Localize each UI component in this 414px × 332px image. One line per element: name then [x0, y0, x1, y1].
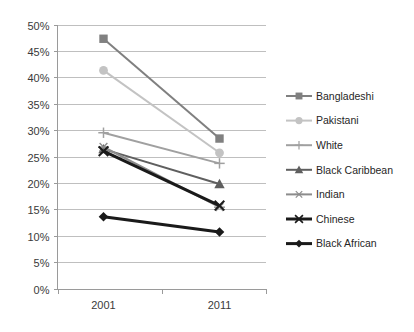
chart-canvas: 0%5%10%15%20%25%30%35%40%45%50% 20012011… — [0, 0, 414, 332]
y-tick-label: 30% — [27, 125, 49, 137]
y-tick-label: 10% — [27, 231, 49, 243]
plus-marker — [295, 141, 304, 150]
series-line — [104, 39, 220, 139]
y-tick-label: 20% — [27, 178, 49, 190]
y-tick-label: 15% — [27, 204, 49, 216]
circle-marker — [99, 66, 108, 75]
y-tick-label: 45% — [27, 46, 49, 58]
legend-label: Pakistani — [316, 114, 359, 126]
y-tick-label: 25% — [27, 152, 49, 164]
asterisk-marker — [295, 191, 304, 197]
legend-item-bangladeshi[interactable]: Bangladeshi — [286, 90, 374, 102]
legend-label: Bangladeshi — [316, 90, 374, 102]
legend-item-indian[interactable]: Indian — [286, 188, 345, 200]
series-black-african — [99, 212, 225, 237]
legend-label: Black Caribbean — [316, 164, 393, 176]
series-line — [104, 70, 220, 152]
diamond-marker — [99, 212, 109, 222]
y-axis-tick-labels: 0%5%10%15%20%25%30%35%40%45%50% — [27, 20, 49, 296]
y-tick-label: 50% — [27, 20, 49, 32]
circle-marker — [215, 148, 224, 157]
legend-label: Chinese — [316, 213, 355, 225]
legend-item-black-caribbean[interactable]: Black Caribbean — [286, 164, 393, 176]
x-axis-tick-labels: 20012011 — [91, 299, 231, 311]
axis-layer — [54, 25, 267, 294]
y-tick-label: 5% — [34, 257, 50, 269]
legend-label: White — [316, 139, 343, 151]
y-tick-label: 0% — [34, 284, 50, 296]
y-tick-label: 40% — [27, 72, 49, 84]
legend-item-chinese[interactable]: Chinese — [286, 213, 355, 225]
square-marker — [99, 35, 107, 43]
circle-marker — [295, 117, 302, 124]
series-pakistani — [99, 66, 224, 157]
chart-legend: BangladeshiPakistaniWhiteBlack Caribbean… — [286, 90, 393, 250]
diamond-marker — [295, 240, 303, 248]
y-tick-label: 35% — [27, 99, 49, 111]
legend-item-white[interactable]: White — [286, 139, 343, 151]
line-chart: 0%5%10%15%20%25%30%35%40%45%50% 20012011… — [0, 0, 414, 332]
square-marker — [215, 134, 223, 142]
square-marker — [296, 93, 303, 100]
plus-marker — [98, 128, 108, 138]
legend-label: Indian — [316, 188, 345, 200]
diamond-marker — [215, 227, 225, 237]
data-series-layer — [98, 35, 225, 237]
x-tick-label-2001: 2001 — [91, 299, 115, 311]
legend-item-pakistani[interactable]: Pakistani — [286, 114, 359, 126]
x-tick-label-2011: 2011 — [208, 299, 232, 311]
grid-layer — [58, 26, 266, 290]
legend-item-black-african[interactable]: Black African — [286, 237, 377, 249]
series-black-caribbean — [98, 144, 224, 188]
legend-label: Black African — [316, 237, 377, 249]
series-bangladeshi — [99, 35, 223, 143]
series-white — [98, 128, 224, 169]
plus-marker — [214, 158, 224, 168]
series-line — [104, 217, 220, 232]
